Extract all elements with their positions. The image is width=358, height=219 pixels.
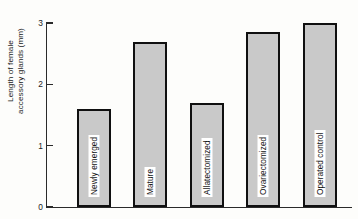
bar-label: Ovariectomized xyxy=(258,135,269,197)
y-axis-tick-1: 1 xyxy=(46,145,53,146)
bar-ovariectomized: Ovariectomized xyxy=(246,32,280,207)
y-axis-tick-label: 0 xyxy=(38,202,43,212)
y-axis-tick-label: 2 xyxy=(38,79,43,89)
bar-operated-control: Operated control xyxy=(303,23,337,207)
bar-allatectomized: Allatectomized xyxy=(190,103,224,207)
y-axis-tick-3: 3 xyxy=(46,22,53,23)
y-axis-title-line-2: accessory glands (mm) xyxy=(16,28,26,114)
y-axis-tick-0: 0 xyxy=(46,206,53,207)
y-axis-title-line-1: Length of female xyxy=(6,40,16,102)
y-axis-tick-label: 3 xyxy=(38,18,43,28)
bar-chart: Length of female accessory glands (mm) 0… xyxy=(0,0,358,219)
bar-label: Newly emerged xyxy=(89,135,100,197)
bar-label: Operated control xyxy=(314,130,325,197)
y-axis-line xyxy=(46,22,47,208)
bar-label: Allatectomized xyxy=(201,138,212,197)
y-axis-tick-label: 1 xyxy=(38,141,43,151)
bar-mature: Mature xyxy=(133,42,167,208)
bar-newly-emerged: Newly emerged xyxy=(77,109,111,207)
bar-label: Mature xyxy=(145,167,156,197)
y-axis-title: Length of female accessory glands (mm) xyxy=(3,11,29,131)
plot-area: 0123 Newly emergedMatureAllatectomizedOv… xyxy=(46,18,352,208)
y-axis-tick-2: 2 xyxy=(46,84,53,85)
x-axis-line xyxy=(46,207,352,208)
